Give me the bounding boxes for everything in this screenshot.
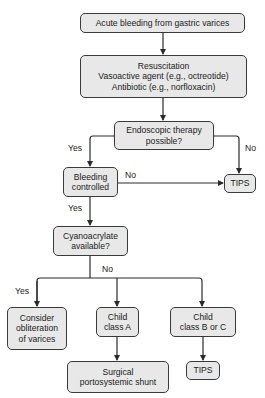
node-text: class B or C [180,322,226,333]
node-surgical-shunt: Surgical portosystemic shunt [67,361,169,393]
edge-label-bleeding-yes: Yes [68,203,82,213]
node-text: of varices [19,334,56,345]
node-text: available? [71,241,110,252]
node-child-class-a: Child class A [96,307,139,337]
node-text: Resuscitation [138,61,190,72]
node-child-class-b-or-c: Child class B or C [170,307,236,337]
node-text: Consider [20,313,54,324]
node-text: portosystemic shunt [80,377,156,388]
node-text: TIPS [193,365,212,376]
node-text: obliteration [16,323,58,334]
node-cyanoacrylate: Cyanoacrylate available? [53,226,128,256]
node-tips-top: TIPS [224,174,256,193]
edge-label-bleeding-no: No [125,170,136,180]
node-text: class A [104,322,131,333]
node-text: Acute bleeding from gastric varices [96,18,230,29]
node-bleeding-controlled: Bleeding controlled [63,167,118,197]
node-tips-bottom: TIPS [186,361,220,380]
node-text: Child [108,312,128,323]
node-text: Endoscopic therapy [126,125,201,136]
node-text: Cyanoacrylate [63,231,118,242]
node-text: Bleeding [74,172,107,183]
node-text: Surgical [102,367,133,378]
node-resuscitation: Resuscitation Vasoactive agent (e.g., oc… [80,55,247,98]
node-text: possible? [146,136,182,147]
node-text: TIPS [230,178,249,189]
node-endoscopic-therapy: Endoscopic therapy possible? [114,121,214,150]
node-text: controlled [72,182,109,193]
edge-label-endoscopic-yes: Yes [68,143,82,153]
node-text: Antibiotic (e.g., norfloxacin) [112,82,216,93]
edge-label-cyano-no: No [102,264,113,274]
edge-label-endoscopic-no: No [245,143,256,153]
node-acute-bleeding: Acute bleeding from gastric varices [80,13,245,33]
node-text: Child [193,312,213,323]
node-text: Vasoactive agent (e.g., octreotide) [98,71,228,82]
node-consider-obliteration: Consider obliteration of varices [7,307,67,350]
edge-label-cyano-yes: Yes [15,286,29,296]
